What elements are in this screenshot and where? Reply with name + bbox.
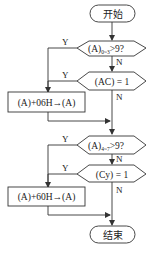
cond-low-main: (A) — [88, 44, 101, 55]
cond-low-yes-label: Y — [62, 37, 69, 47]
cond-low-tail: >9? — [110, 44, 124, 54]
cond-cy-yes-label: Y — [62, 163, 69, 173]
cond-high-yes-label: Y — [62, 134, 69, 144]
edge-add60-merge — [48, 206, 110, 215]
cond-ac-yes-label: Y — [62, 70, 69, 80]
cond-ac-label: (AC) = 1 — [95, 77, 130, 88]
decision-cy: (Cy) = 1 — [77, 165, 146, 182]
cond-cy-no-label: N — [116, 185, 123, 195]
decision-low-nibble: (A)0~3>9? — [77, 41, 146, 56]
process-add-60h: (A)+60H→(A) — [8, 187, 85, 206]
cond-cy-label: (Cy) = 1 — [96, 170, 129, 181]
edge-add06-merge — [48, 112, 110, 121]
cond-low-no-label: N — [116, 57, 123, 67]
end-node: 结束 — [90, 226, 135, 243]
cond-high-main: (A) — [88, 141, 101, 152]
start-label: 开始 — [103, 8, 123, 20]
decision-high-nibble: (A)4~7>9? — [77, 136, 146, 154]
add-60-label: (A)+60H→(A) — [18, 192, 76, 203]
add-06-label: (A)+06H→(A) — [18, 98, 76, 109]
cond-ac-no-label: N — [116, 92, 123, 102]
cond-high-no-label: N — [116, 154, 123, 164]
process-add-06h: (A)+06H→(A) — [8, 92, 85, 112]
start-node: 开始 — [90, 5, 135, 22]
cond-high-tail: >9? — [110, 141, 124, 151]
flowchart: 开始 (A)0~3>9? Y N (AC) = 1 Y (A)+06H→(A) … — [0, 0, 157, 257]
decision-ac: (AC) = 1 — [77, 72, 146, 90]
cond-high-sub: 4~7 — [101, 146, 110, 152]
cond-low-sub: 0~3 — [101, 49, 110, 55]
end-label: 结束 — [103, 229, 123, 241]
